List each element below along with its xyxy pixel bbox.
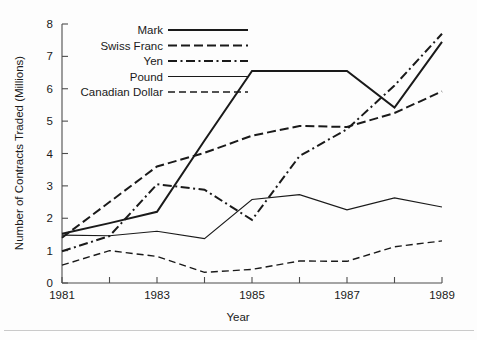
- scan-page-edge: [4, 330, 474, 331]
- x-tick-label: 1985: [239, 289, 265, 301]
- x-tick-label: 1981: [49, 289, 75, 301]
- figure-canvas: 012345678 19811983198519871989 MarkSwiss…: [0, 0, 477, 340]
- series-line-swiss-franc: [62, 91, 442, 237]
- x-tick-label: 1989: [429, 289, 455, 301]
- y-tick-label: 1: [47, 245, 53, 257]
- series-line-canadian-dollar: [62, 241, 442, 272]
- y-axis-title: Number of Contracts Traded (Millions): [13, 56, 25, 250]
- y-tick-label: 2: [47, 212, 53, 224]
- y-tick-label: 8: [47, 18, 53, 30]
- data-series-layer: [62, 34, 442, 273]
- series-line-yen: [62, 34, 442, 252]
- y-tick-label: 5: [47, 115, 53, 127]
- chart-legend: MarkSwiss FrancYenPoundCanadian Dollar: [81, 24, 248, 98]
- x-tick-label: 1987: [334, 289, 360, 301]
- line-chart: 012345678 19811983198519871989 MarkSwiss…: [0, 0, 477, 340]
- axis-spines: [62, 24, 442, 283]
- y-tick-label: 3: [47, 180, 53, 192]
- x-axis-tick-labels: 19811983198519871989: [49, 289, 455, 301]
- series-line-mark: [62, 42, 442, 234]
- x-axis-ticks: [62, 277, 442, 283]
- y-tick-label: 4: [47, 148, 54, 160]
- legend-label-mark: Mark: [137, 24, 163, 36]
- legend-label-swiss-franc: Swiss Franc: [100, 40, 163, 52]
- legend-label-yen: Yen: [144, 55, 163, 67]
- x-tick-label: 1983: [144, 289, 170, 301]
- y-tick-label: 6: [47, 83, 53, 95]
- legend-label-pound: Pound: [130, 71, 163, 83]
- y-tick-label: 0: [47, 277, 53, 289]
- x-axis-title: Year: [226, 311, 249, 323]
- legend-label-canadian-dollar: Canadian Dollar: [81, 86, 164, 98]
- y-axis-tick-labels: 012345678: [47, 18, 54, 289]
- series-line-pound: [62, 195, 442, 239]
- y-axis-ticks: [62, 24, 68, 283]
- y-tick-label: 7: [47, 50, 53, 62]
